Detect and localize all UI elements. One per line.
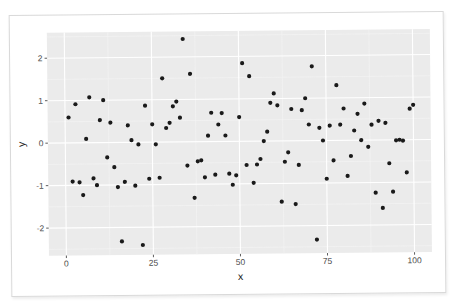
data-point [366, 145, 370, 149]
data-point [383, 121, 387, 125]
data-point [112, 165, 116, 169]
data-point [349, 154, 353, 158]
data-point [171, 104, 175, 108]
data-point [391, 190, 395, 194]
data-point [258, 157, 262, 161]
data-point [411, 103, 415, 107]
data-point [341, 106, 345, 110]
data-point [255, 162, 259, 166]
data-point [160, 76, 164, 80]
y-tick-label: 0 [39, 138, 44, 148]
data-point [294, 202, 298, 206]
data-point [116, 185, 120, 189]
data-point [315, 237, 319, 241]
data-point [300, 108, 304, 112]
data-point [203, 175, 207, 179]
data-point [307, 122, 311, 126]
data-point [123, 180, 127, 184]
data-point [252, 181, 256, 185]
data-point [81, 193, 85, 197]
data-point [328, 123, 332, 127]
data-point [120, 239, 124, 243]
x-tick-label: 75 [323, 256, 333, 266]
x-tick-label: 0 [64, 259, 69, 269]
data-point [240, 61, 244, 65]
data-point [213, 173, 217, 177]
data-point [98, 118, 102, 122]
data-point [244, 163, 248, 167]
data-point [334, 83, 338, 87]
data-point [77, 180, 81, 184]
data-point [143, 104, 147, 108]
data-point [325, 177, 329, 181]
x-tick-label: 100 [407, 255, 422, 265]
y-tick-label: 1 [38, 96, 43, 106]
data-point [369, 123, 373, 127]
data-point [374, 191, 378, 195]
data-point [317, 126, 321, 130]
data-point [126, 123, 130, 127]
data-point [231, 183, 235, 187]
data-point [133, 184, 137, 188]
data-point [84, 137, 88, 141]
x-axis-title: x [238, 270, 244, 282]
data-point [310, 64, 314, 68]
data-point [192, 196, 196, 200]
data-point [209, 111, 213, 115]
data-point [108, 121, 112, 125]
data-point [405, 170, 409, 174]
data-point [265, 130, 269, 134]
data-point [268, 101, 272, 105]
data-point [303, 96, 307, 100]
data-point [352, 128, 356, 132]
data-point [158, 176, 162, 180]
data-point [206, 134, 210, 138]
y-tick-label: -1 [36, 181, 44, 191]
data-point [216, 122, 220, 126]
data-point [223, 133, 227, 137]
data-point [289, 107, 293, 111]
data-point [105, 155, 109, 159]
data-point [321, 138, 325, 142]
plot-card: 0255075100 -2-1012 x y [9, 11, 447, 297]
data-point [220, 111, 224, 115]
data-point [286, 150, 290, 154]
y-axis-title: y [15, 141, 27, 147]
data-point [401, 138, 405, 142]
data-point [188, 72, 192, 76]
data-point [129, 138, 133, 142]
data-point [181, 37, 185, 41]
data-point [227, 172, 231, 176]
data-point [150, 122, 154, 126]
data-point [275, 103, 279, 107]
data-point [262, 139, 266, 143]
data-point [345, 174, 349, 178]
data-point [141, 243, 145, 247]
data-point [381, 206, 385, 210]
y-tick-label: -2 [37, 223, 45, 233]
data-point [147, 177, 151, 181]
data-point [362, 101, 366, 105]
data-point [167, 121, 171, 125]
data-point [280, 200, 284, 204]
data-point [66, 115, 70, 119]
data-point [71, 179, 75, 183]
data-point [297, 163, 301, 167]
data-point [359, 138, 363, 142]
data-point [331, 158, 335, 162]
data-point [376, 119, 380, 123]
data-point [95, 183, 99, 187]
data-point [73, 102, 77, 106]
data-point [272, 91, 276, 95]
data-point [154, 142, 158, 146]
data-point [87, 95, 91, 99]
data-point [91, 176, 95, 180]
data-point [355, 112, 359, 116]
data-point [101, 98, 105, 102]
data-point [136, 142, 140, 146]
y-axis: -2-1012 [35, 53, 49, 233]
data-point [234, 173, 238, 177]
data-point [174, 99, 178, 103]
data-point [237, 115, 241, 119]
data-point [178, 116, 182, 120]
